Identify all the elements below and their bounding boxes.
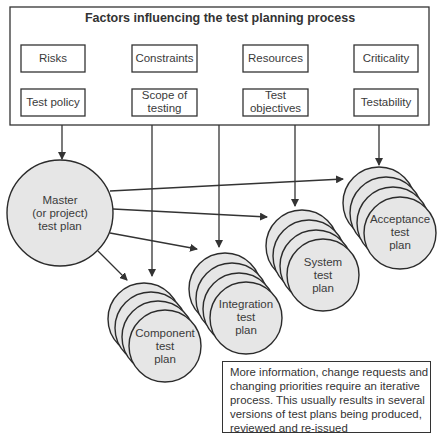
master-plan-line1: Master — [42, 194, 77, 207]
factor-label-resources: Resources — [243, 45, 308, 72]
acceptance-plan-line1: Acceptance — [370, 213, 430, 226]
component-plan-label: Component test plan — [130, 325, 200, 367]
integration-plan-line3: plan — [235, 324, 257, 337]
note-line: process. This usually results in several — [230, 393, 430, 407]
acceptance-plan-label: Acceptance test plan — [365, 211, 435, 253]
factor-label-scope-of-testing: Scope of testing — [136, 88, 193, 116]
integration-plan-label: Integration test plan — [211, 296, 281, 338]
acceptance-plan-line3: plan — [389, 239, 411, 252]
factor-label-risks: Risks — [21, 45, 85, 72]
arrow-master-to-component — [98, 251, 127, 280]
arrow-master-to-acceptance — [110, 179, 343, 191]
component-plan-line2: test — [156, 340, 175, 353]
factor-label-testability: Testability — [354, 89, 418, 116]
arrow-master-to-system — [113, 209, 267, 217]
component-plan-line1: Component — [135, 327, 194, 340]
diagram-title: Factors influencing the test planning pr… — [10, 11, 430, 25]
factor-label-criticality: Criticality — [354, 45, 418, 72]
note-line: changing priorities require an iterative — [230, 379, 430, 393]
note-line: reviewed and re-issued — [230, 421, 430, 435]
arrow-master-to-integration — [110, 233, 197, 249]
factor-label-test-objectives: Test objectives — [247, 88, 304, 116]
iteration-note-box: More information, change requests and ch… — [222, 361, 431, 433]
system-plan-label: System test plan — [288, 254, 358, 296]
note-line: versions of test plans being produced, — [230, 407, 430, 421]
master-plan-label: Master (or project) test plan — [15, 190, 105, 236]
integration-plan-line2: test — [237, 311, 256, 324]
factor-label-test-policy: Test policy — [21, 89, 85, 116]
note-line: More information, change requests and — [230, 365, 430, 379]
integration-plan-line1: Integration — [219, 298, 273, 311]
system-plan-line3: plan — [312, 282, 334, 295]
component-plan-line3: plan — [154, 353, 176, 366]
system-plan-line2: test — [314, 269, 333, 282]
master-plan-line3: test plan — [38, 220, 81, 233]
master-plan-line2: (or project) — [32, 207, 88, 220]
system-plan-line1: System — [304, 256, 342, 269]
factor-label-constraints: Constraints — [132, 45, 197, 72]
acceptance-plan-line2: test — [391, 226, 410, 239]
